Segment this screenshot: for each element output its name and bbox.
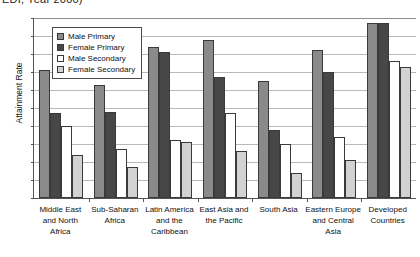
bar xyxy=(367,23,378,198)
bar xyxy=(280,144,291,198)
bar xyxy=(312,50,323,198)
legend-item: Male Secondary xyxy=(57,53,135,64)
y-tick-mark xyxy=(31,36,34,37)
y-tick-mark xyxy=(31,180,34,181)
bar-group xyxy=(361,18,416,198)
x-tick-mark xyxy=(307,198,308,202)
x-axis-category-line: Developed xyxy=(352,204,420,215)
y-tick-mark xyxy=(31,18,34,19)
bar xyxy=(400,67,411,198)
bar xyxy=(61,126,72,198)
x-tick-mark xyxy=(252,198,253,202)
y-tick-mark xyxy=(31,126,34,127)
legend-item-label: Female Primary xyxy=(68,43,124,52)
y-tick-mark xyxy=(31,90,34,91)
bar xyxy=(127,167,138,198)
bar xyxy=(258,81,269,198)
bar xyxy=(269,130,280,198)
x-axis-category-line: the Pacific xyxy=(189,215,260,226)
bar xyxy=(236,151,247,198)
y-tick-mark xyxy=(31,54,34,55)
bar xyxy=(116,149,127,198)
y-tick-mark xyxy=(31,108,34,109)
legend-item: Female Primary xyxy=(57,42,135,53)
x-axis-category-line: Countries xyxy=(352,215,420,226)
legend-swatch-icon xyxy=(57,33,64,40)
y-tick-mark xyxy=(31,162,34,163)
bar xyxy=(389,61,400,198)
y-tick-mark xyxy=(31,198,34,199)
bar xyxy=(181,142,192,198)
bar xyxy=(214,77,225,198)
x-axis-category-line: Africa xyxy=(25,226,96,237)
x-tick-mark xyxy=(361,198,362,202)
bar xyxy=(203,40,214,198)
bar xyxy=(148,47,159,198)
y-axis-title: Attainment Rate xyxy=(14,38,24,148)
bar xyxy=(105,112,116,198)
bar xyxy=(225,113,236,198)
x-axis-category-line: Asia xyxy=(298,226,369,237)
bar xyxy=(291,173,302,198)
y-tick-mark xyxy=(31,144,34,145)
bar-chart-figure: EDI, Year 2000) Attainment Rate 01020304… xyxy=(0,0,420,257)
x-tick-mark xyxy=(198,198,199,202)
bar xyxy=(94,85,105,198)
bar xyxy=(159,52,170,198)
legend-item-label: Male Primary xyxy=(68,32,115,41)
bar-group xyxy=(143,18,198,198)
bar xyxy=(345,160,356,198)
x-axis-labels: Middle Eastand NorthAfricaSub-SaharanAfr… xyxy=(33,204,415,254)
chart-title: EDI, Year 2000) xyxy=(2,0,83,5)
bar xyxy=(72,155,83,198)
legend-swatch-icon xyxy=(57,66,64,73)
bar-group xyxy=(198,18,253,198)
x-tick-mark xyxy=(89,198,90,202)
bar-group xyxy=(252,18,307,198)
x-axis-category-line: Caribbean xyxy=(134,226,205,237)
bar-group xyxy=(307,18,362,198)
legend-item: Male Primary xyxy=(57,31,135,42)
legend-item-label: Male Secondary xyxy=(68,54,126,63)
bar xyxy=(170,140,181,198)
bar xyxy=(334,137,345,198)
chart-legend: Male PrimaryFemale PrimaryMale Secondary… xyxy=(52,27,142,79)
bar xyxy=(50,113,61,198)
legend-item: Female Secondary xyxy=(57,64,135,75)
x-tick-mark xyxy=(143,198,144,202)
legend-item-label: Female Secondary xyxy=(68,65,135,74)
bar xyxy=(323,72,334,198)
bar xyxy=(39,70,50,198)
x-axis-category-label: DevelopedCountries xyxy=(352,204,420,226)
legend-swatch-icon xyxy=(57,55,64,62)
y-tick-mark xyxy=(31,72,34,73)
legend-swatch-icon xyxy=(57,44,64,51)
bar xyxy=(378,23,389,198)
